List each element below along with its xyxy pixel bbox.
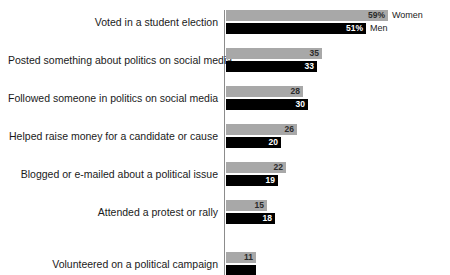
bar-men[interactable]: 20: [226, 137, 281, 148]
bar-value-women: 59%: [368, 10, 385, 21]
bar-women[interactable]: 15: [226, 200, 267, 211]
bar-group: Volunteered on a political campaign 11: [0, 252, 450, 275]
category-label: Blogged or e-mailed about a political is…: [8, 168, 218, 180]
bar-value-men: 19: [266, 175, 275, 186]
bar-pair: 28 30: [226, 86, 308, 112]
bar-women[interactable]: 28: [226, 86, 303, 97]
bar-value-men: 30: [296, 99, 305, 110]
category-label: Posted something about politics on socia…: [8, 54, 218, 66]
bar-value-women: 28: [291, 86, 300, 97]
bar-pair: 35 33: [226, 48, 322, 74]
bar-group: Voted in a student election 59% Women 51…: [0, 10, 450, 40]
category-label: Attended a protest or rally: [8, 206, 218, 218]
bar-group: Posted something about politics on socia…: [0, 48, 450, 78]
bar-group: Attended a protest or rally 15 18: [0, 200, 450, 230]
category-label: Voted in a student election: [8, 16, 218, 28]
grouped-bar-chart: Voted in a student election 59% Women 51…: [0, 0, 450, 275]
bar-women[interactable]: 35: [226, 48, 322, 59]
bar-women[interactable]: 11: [226, 252, 256, 263]
bar-value-women: 15: [255, 200, 264, 211]
bar-men[interactable]: 51% Men: [226, 23, 366, 34]
category-label: Helped raise money for a candidate or ca…: [8, 130, 218, 142]
bar-women[interactable]: 26: [226, 124, 297, 135]
legend-label-women: Women: [392, 10, 423, 21]
bar-value-women: 22: [274, 162, 283, 173]
bar-group: Followed someone in politics on social m…: [0, 86, 450, 116]
bar-group: Helped raise money for a candidate or ca…: [0, 124, 450, 154]
bar-pair: 26 20: [226, 124, 297, 150]
category-label: Followed someone in politics on social m…: [8, 92, 218, 104]
bar-women[interactable]: 59% Women: [226, 10, 388, 21]
bar-value-women: 11: [244, 252, 253, 263]
category-label: Volunteered on a political campaign: [8, 258, 218, 270]
bar-value-men: 18: [263, 213, 272, 224]
bar-pair: 22 19: [226, 162, 286, 188]
bar-men[interactable]: 18: [226, 213, 275, 224]
bar-value-men: 33: [305, 61, 314, 72]
bar-pair: 59% Women 51% Men: [226, 10, 388, 36]
bar-value-women: 26: [285, 124, 294, 135]
bar-men[interactable]: 33: [226, 61, 317, 72]
bar-group: Blogged or e-mailed about a political is…: [0, 162, 450, 192]
bar-men[interactable]: 19: [226, 175, 278, 186]
bar-value-women: 35: [310, 48, 319, 59]
bar-women[interactable]: 22: [226, 162, 286, 173]
legend-label-men: Men: [370, 23, 388, 34]
bar-value-men: 51%: [346, 23, 363, 34]
bar-men[interactable]: 30: [226, 99, 308, 110]
bar-pair: 15 18: [226, 200, 275, 226]
bar-pair: 11: [226, 252, 256, 275]
bar-men[interactable]: [226, 265, 256, 275]
bar-value-men: 20: [269, 137, 278, 148]
